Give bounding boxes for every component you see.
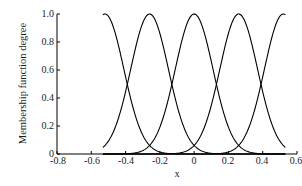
curve-mf5 <box>103 14 285 154</box>
chart-figure: Membership function degree x 1.0 0.8 0.6… <box>0 0 302 186</box>
curve-mf4 <box>103 14 285 154</box>
plot-area <box>0 0 302 186</box>
curve-mf2 <box>103 14 285 154</box>
membership-curves <box>103 14 285 154</box>
curve-mf1 <box>103 14 285 154</box>
curve-mf3 <box>103 14 285 154</box>
